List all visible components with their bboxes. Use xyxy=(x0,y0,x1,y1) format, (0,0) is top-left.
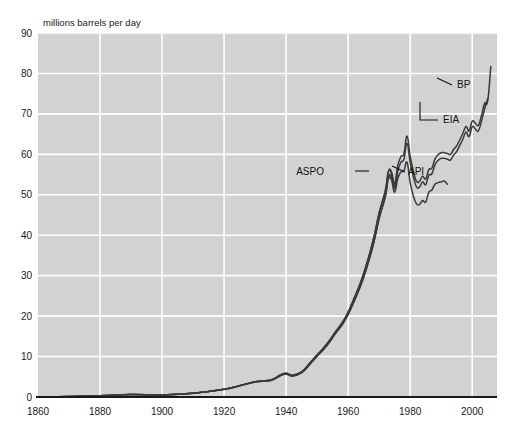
y-tick-30: 30 xyxy=(21,270,33,281)
y-tick-90: 90 xyxy=(21,28,33,39)
x-tick-1860: 1860 xyxy=(27,406,50,417)
oil-production-chart: BPEIAAPIASPO 0102030405060708090 1860188… xyxy=(0,0,517,440)
y-tick-70: 70 xyxy=(21,108,33,119)
series-label-eia: EIA xyxy=(443,114,459,125)
plot-background xyxy=(38,33,497,397)
y-tick-50: 50 xyxy=(21,189,33,200)
chart-canvas: BPEIAAPIASPO 0102030405060708090 1860188… xyxy=(0,0,517,440)
x-tick-1920: 1920 xyxy=(213,406,236,417)
x-tick-1880: 1880 xyxy=(89,406,112,417)
y-tick-40: 40 xyxy=(21,230,33,241)
y-tick-80: 80 xyxy=(21,68,33,79)
x-tick-1940: 1940 xyxy=(275,406,298,417)
x-tick-1960: 1960 xyxy=(337,406,360,417)
y-tick-10: 10 xyxy=(21,351,33,362)
series-label-aspo: ASPO xyxy=(296,166,324,177)
series-label-api: API xyxy=(408,166,424,177)
y-tick-0: 0 xyxy=(26,392,32,403)
series-label-bp: BP xyxy=(457,79,471,90)
x-tick-2000: 2000 xyxy=(461,406,484,417)
y-axis-title: millions barrels per day xyxy=(43,17,141,28)
y-tick-60: 60 xyxy=(21,149,33,160)
x-tick-1980: 1980 xyxy=(399,406,422,417)
x-tick-1900: 1900 xyxy=(151,406,174,417)
y-tick-20: 20 xyxy=(21,311,33,322)
